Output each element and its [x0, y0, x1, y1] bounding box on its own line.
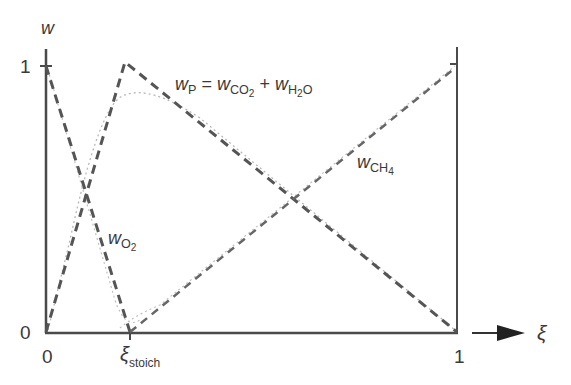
xi-arrow-head-icon — [497, 325, 525, 341]
wp-real-curve — [48, 93, 455, 330]
wp-symbol: wP — [175, 74, 196, 94]
x-tick-label-1: 1 — [454, 346, 465, 368]
xi-symbol: ξ — [120, 343, 129, 365]
plus-sign: + — [259, 74, 270, 94]
stoich-subscript: stoich — [129, 356, 160, 370]
wch4-real-curve — [120, 66, 455, 328]
diagram-canvas — [0, 0, 571, 385]
y-tick-label-1: 1 — [20, 56, 31, 78]
wo2-real-curve — [48, 70, 140, 323]
equals-sign: = — [201, 74, 212, 94]
x-axis-label: ξ — [537, 321, 546, 345]
wo2-line — [46, 66, 130, 332]
wp-line — [46, 62, 457, 332]
y-tick-label-0: 0 — [20, 322, 31, 344]
wco2-symbol: wCO2 — [217, 74, 255, 94]
x-tick-label-0: 0 — [42, 346, 53, 368]
label-wp-equation: wP = wCO2 + wH2O — [175, 74, 313, 99]
x-tick-label-stoich: ξstoich — [120, 343, 160, 370]
wh2o-symbol: wH2O — [275, 74, 313, 94]
label-wo2: wO2 — [108, 228, 136, 253]
label-wch4: wCH4 — [357, 152, 394, 177]
y-axis-label: w — [41, 18, 54, 39]
